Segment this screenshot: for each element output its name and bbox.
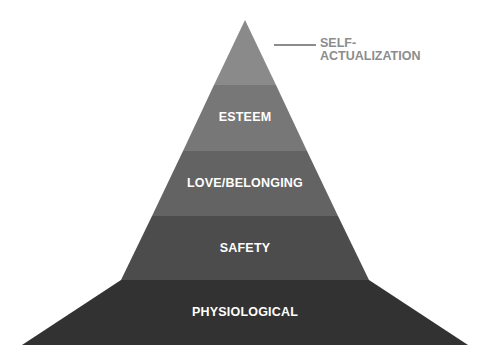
love-belonging-label: LOVE/BELONGING — [187, 176, 303, 190]
safety-label: SAFETY — [220, 241, 271, 255]
callout-line — [274, 44, 316, 46]
level-self-actualization — [214, 20, 276, 85]
self-actualization-label: SELF- ACTUALIZATION — [320, 37, 420, 63]
physiological-label: PHYSIOLOGICAL — [192, 305, 298, 319]
self-actualization-line2: ACTUALIZATION — [320, 50, 420, 63]
esteem-label: ESTEEM — [219, 110, 272, 124]
